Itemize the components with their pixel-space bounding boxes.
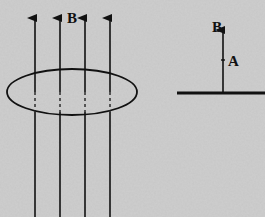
diagram-canvas: B B A (0, 0, 265, 217)
area-label-a: A (228, 53, 239, 69)
vector-label-b: B (212, 19, 222, 35)
magnetic-flux-diagram: B B A (0, 0, 265, 217)
field-label-b: B (67, 10, 77, 26)
halftone-texture (0, 0, 265, 217)
